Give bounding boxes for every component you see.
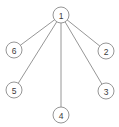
graph-node-5[interactable]: 5 — [6, 82, 22, 98]
edge-layer — [18, 20, 102, 107]
graph-edge-1-6 — [20, 20, 54, 45]
graph-node-4[interactable]: 4 — [53, 107, 69, 123]
star-graph-figure: 123456 — [0, 0, 119, 127]
graph-node-label-5: 5 — [12, 86, 17, 96]
graph-node-6[interactable]: 6 — [6, 42, 22, 58]
graph-node-label-4: 4 — [59, 111, 64, 121]
node-layer: 123456 — [6, 7, 114, 123]
graph-node-3[interactable]: 3 — [98, 83, 114, 99]
graph-node-1[interactable]: 1 — [53, 7, 69, 23]
graph-edge-1-3 — [65, 22, 102, 84]
graph-edge-1-5 — [18, 22, 57, 83]
graph-node-label-3: 3 — [104, 87, 109, 97]
graph-node-label-6: 6 — [12, 46, 17, 56]
graph-canvas: 123456 — [0, 0, 119, 127]
graph-node-2[interactable]: 2 — [98, 43, 114, 59]
graph-node-label-1: 1 — [59, 11, 64, 21]
graph-node-label-2: 2 — [104, 47, 109, 57]
